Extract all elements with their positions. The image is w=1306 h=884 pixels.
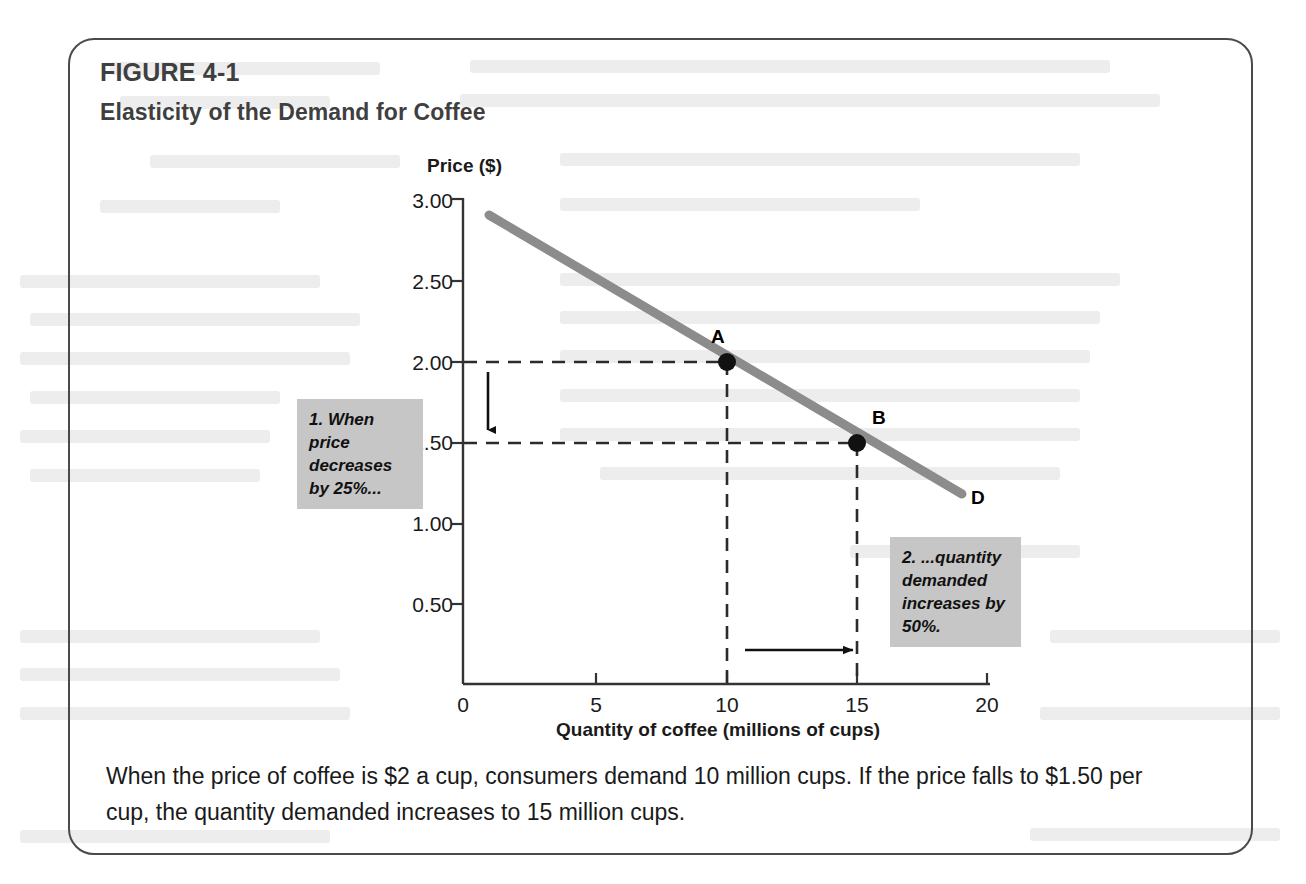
callout-price-decrease: 1. When price decreases by 25%... (297, 399, 423, 509)
x-tick-label-10: 10 (702, 693, 752, 717)
figure-title: Elasticity of the Demand for Coffee (100, 99, 486, 126)
x-tick-label-15: 15 (832, 693, 882, 717)
y-axis-title: Price ($) (427, 155, 502, 177)
point-label-a: A (711, 326, 725, 348)
x-tick-label-0: 0 (438, 693, 488, 717)
y-tick-label-2-00: 2.00 (389, 351, 453, 375)
x-axis-title: Quantity of coffee (millions of cups) (556, 719, 880, 741)
y-tick-label-0-50: 0.50 (389, 593, 453, 617)
x-tick-label-20: 20 (962, 693, 1012, 717)
y-tick-label-1-00: 1.00 (389, 512, 453, 536)
x-tick-label-5: 5 (571, 693, 621, 717)
figure-number: FIGURE 4-1 (100, 58, 240, 87)
callout-quantity-increase: 2. ...quantity demanded increases by 50%… (890, 537, 1021, 647)
point-label-b: B (872, 407, 886, 429)
demand-curve-label: D (971, 487, 985, 509)
y-tick-label-2-50: 2.50 (389, 270, 453, 294)
y-tick-label-3-00: 3.00 (389, 189, 453, 213)
figure-caption: When the price of coffee is $2 a cup, co… (106, 758, 1176, 830)
